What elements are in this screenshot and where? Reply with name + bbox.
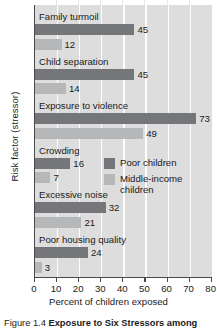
bar-value-label: 45 xyxy=(137,24,148,35)
figure-container: Risk factor (stressor) Family turmoil451… xyxy=(0,0,217,335)
caption-prefix: Figure xyxy=(4,318,30,328)
figure-caption: Figure 1.4 Exposure to Six Stressors amo… xyxy=(4,318,215,328)
gridline xyxy=(145,5,146,277)
gridline xyxy=(168,5,169,277)
bar-value-label: 14 xyxy=(69,83,80,94)
bar-value-label: 12 xyxy=(65,39,76,50)
x-axis-tick xyxy=(144,278,145,282)
x-axis-tick xyxy=(211,278,212,282)
legend-swatch-poor-icon xyxy=(104,158,115,169)
legend-swatch-middle-icon xyxy=(104,174,115,185)
bar-middle xyxy=(35,217,81,228)
category-label: Crowding xyxy=(39,145,80,156)
bar-middle xyxy=(35,262,42,273)
bar-value-label: 7 xyxy=(53,172,58,183)
bar-value-label: 16 xyxy=(73,158,84,169)
bar-value-label: 3 xyxy=(45,262,50,273)
bar-poor xyxy=(35,24,134,35)
top-guide xyxy=(56,0,57,5)
bar-middle xyxy=(35,39,62,50)
category-label: Family turmoil xyxy=(39,11,99,22)
chart-legend: Poor children Middle-income children xyxy=(104,158,192,200)
x-axis-tick-label: 80 xyxy=(198,283,217,294)
category-label: Excessive noise xyxy=(39,189,108,200)
legend-label-middle: Middle-income children xyxy=(120,174,192,195)
bar-poor xyxy=(35,202,106,213)
legend-label-poor: Poor children xyxy=(120,158,177,169)
top-guide xyxy=(100,0,101,5)
top-guide xyxy=(167,0,168,5)
x-axis-tick xyxy=(189,278,190,282)
y-axis-title: Risk factor (stressor) xyxy=(9,37,20,237)
bar-poor xyxy=(35,158,70,169)
caption-title: Exposure to Six Stressors among xyxy=(48,318,197,328)
x-axis-title: Percent of children exposed xyxy=(0,296,217,307)
gridline xyxy=(212,5,213,277)
category-label: Poor housing quality xyxy=(39,234,126,245)
top-guide xyxy=(122,0,123,5)
top-guide xyxy=(189,0,190,5)
bar-value-label: 49 xyxy=(146,128,157,139)
bar-middle xyxy=(35,172,50,183)
category-label: Exposure to violence xyxy=(39,100,128,111)
bar-value-label: 73 xyxy=(199,113,210,124)
x-axis-tick xyxy=(34,278,35,282)
bar-value-label: 32 xyxy=(109,202,120,213)
x-axis-tick xyxy=(100,278,101,282)
x-axis-tick xyxy=(78,278,79,282)
x-axis-tick xyxy=(167,278,168,282)
legend-item-middle: Middle-income children xyxy=(104,174,192,195)
bar-poor xyxy=(35,247,88,258)
bar-value-label: 21 xyxy=(84,217,95,228)
bar-poor xyxy=(35,69,134,80)
legend-item-poor: Poor children xyxy=(104,158,192,169)
category-label: Child separation xyxy=(39,56,108,67)
caption-number: 1.4 xyxy=(33,318,46,328)
plot-area: Family turmoil4512Child separation4514Ex… xyxy=(34,5,212,278)
bar-middle xyxy=(35,128,143,139)
bar-value-label: 45 xyxy=(137,69,148,80)
bar-value-label: 24 xyxy=(91,247,102,258)
top-guide xyxy=(78,0,79,5)
bar-poor xyxy=(35,113,196,124)
x-axis-tick xyxy=(122,278,123,282)
top-guide xyxy=(144,0,145,5)
bar-middle xyxy=(35,83,66,94)
x-axis-tick xyxy=(56,278,57,282)
gridline xyxy=(190,5,191,277)
